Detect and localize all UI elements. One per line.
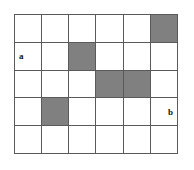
grid-cell-r3-c2[interactable] <box>42 71 69 99</box>
grid-cell-r2-c3[interactable] <box>69 43 96 71</box>
cell-label-b: b <box>168 107 173 116</box>
grid-cell-r4-c4[interactable] <box>96 98 123 126</box>
grid-cell-r5-c1[interactable] <box>15 126 42 154</box>
grid-cell-r3-c6[interactable] <box>151 71 178 99</box>
diagram-canvas: ab <box>0 0 194 170</box>
grid-cell-r5-c2[interactable] <box>42 126 69 154</box>
grid-cell-r2-c1[interactable]: a <box>15 43 42 71</box>
grid-cell-r4-c1[interactable] <box>15 98 42 126</box>
grid-cell-r3-c4[interactable] <box>96 71 123 99</box>
grid-cell-r1-c3[interactable] <box>69 15 96 43</box>
grid-cell-r4-c5[interactable] <box>124 98 151 126</box>
grid-cell-r5-c4[interactable] <box>96 126 123 154</box>
grid-cell-r2-c6[interactable] <box>151 43 178 71</box>
grid-cell-r5-c6[interactable] <box>151 126 178 154</box>
grid-cell-r1-c1[interactable] <box>15 15 42 43</box>
grid-cell-r3-c3[interactable] <box>69 71 96 99</box>
grid-cell-r2-c2[interactable] <box>42 43 69 71</box>
square-grid: ab <box>14 14 178 154</box>
grid-cell-r3-c5[interactable] <box>124 71 151 99</box>
grid-cell-r4-c6[interactable]: b <box>151 98 178 126</box>
grid-cell-r4-c3[interactable] <box>69 98 96 126</box>
grid-cell-r4-c2[interactable] <box>42 98 69 126</box>
grid-cell-r2-c5[interactable] <box>124 43 151 71</box>
cell-label-a: a <box>19 52 24 61</box>
grid-cell-r5-c3[interactable] <box>69 126 96 154</box>
grid-cell-r1-c4[interactable] <box>96 15 123 43</box>
grid-cell-r1-c5[interactable] <box>124 15 151 43</box>
grid-cell-r5-c5[interactable] <box>124 126 151 154</box>
grid-cell-r1-c2[interactable] <box>42 15 69 43</box>
grid-cell-r2-c4[interactable] <box>96 43 123 71</box>
grid-cell-r1-c6[interactable] <box>151 15 178 43</box>
grid-cell-r3-c1[interactable] <box>15 71 42 99</box>
